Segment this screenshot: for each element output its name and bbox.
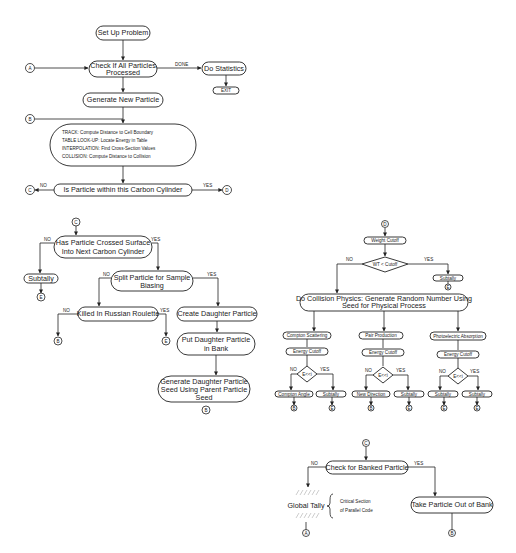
label-no: NO: [346, 257, 353, 262]
connector-b-label: B: [204, 408, 207, 413]
arrow-no: [366, 375, 373, 390]
label-no: NO: [44, 237, 51, 242]
decision-energy-compton-label: E<<i: [302, 372, 311, 377]
arrow-no: [58, 314, 78, 336]
node-compton-angle-label: Compton Angle: [278, 392, 310, 397]
decision-energy-pair-label: E<<i: [378, 373, 387, 378]
label-no: NO: [311, 461, 318, 466]
hatch-top: [296, 490, 319, 495]
critical-section-label-1: Critical Section: [340, 499, 371, 504]
arrow-yes: [408, 264, 448, 274]
label-no: NO: [290, 367, 297, 372]
node-track-line-4: COLLISION: Compute Distance to Collision: [62, 154, 151, 159]
label-no: NO: [103, 272, 110, 277]
node-within-cylinder-label: Is Particle within this Carbon Cylinder: [63, 185, 183, 194]
connector-e-label: E: [330, 406, 333, 411]
decision-wt-cutoff-label: WT < Cutoff: [373, 262, 398, 267]
label-yes: YES: [160, 308, 169, 313]
connector-e-label: E: [442, 406, 445, 411]
node-subtally-label: Subtally: [440, 276, 457, 281]
node-generate-new-label: Generate New Particle: [87, 95, 159, 104]
arrow-yes: [393, 375, 408, 390]
connector-e-label: E: [164, 339, 167, 344]
connector-e-label: E: [446, 285, 449, 290]
node-killed-label: Killed In Russian Roulette: [77, 309, 159, 318]
node-put-daughter-label-1: Put Daughter Particle: [182, 335, 250, 344]
label-yes: YES: [396, 368, 405, 373]
arrow-no: [99, 278, 111, 306]
arrow-yes: [468, 376, 478, 390]
arrow-no: [291, 374, 297, 390]
arrow-yes: [158, 314, 166, 336]
node-subtally-compton-label: Subtally: [323, 392, 340, 397]
arrow-yes: [317, 374, 333, 390]
node-subtally-label: Subtally: [28, 274, 54, 283]
node-pair-production-label: Pair Production: [365, 333, 397, 338]
node-weight-cutoff-label: Weight Cutoff: [371, 238, 399, 243]
node-subtally-photo-2-label: Subtally: [469, 392, 486, 397]
arrow-yes: [152, 243, 158, 270]
node-collision-label-2: Seed for Physical Process: [342, 301, 426, 310]
connector-e-label: E: [39, 295, 42, 300]
flowchart-canvas: Set Up Problem Check If All Particles Pr…: [0, 0, 516, 553]
node-track-line-3: INTERPOLATION: Find Cross-Section Values: [62, 146, 156, 151]
node-crossed-label-1: Has Particle Crossed Surface: [56, 238, 150, 247]
label-no: NO: [365, 368, 372, 373]
node-crossed-label-2: Into Next Carbon Cylinder: [62, 247, 145, 256]
node-take-out-label: Take Particle Out of Bank: [411, 500, 493, 509]
node-exit-label: EXIT: [221, 88, 231, 93]
arrow-no: [40, 243, 54, 273]
node-subtally-photo-1-label: Subtally: [435, 392, 452, 397]
flowchart-d: D Weight Cutoff WT < Cutoff NO YES Subta…: [275, 221, 492, 412]
node-split-label-2: Biasing: [140, 281, 164, 290]
brace: [327, 494, 333, 518]
node-check-banked-label: Check for Banked Particle: [325, 463, 408, 472]
node-do-statistics-label: Do Statistics: [204, 64, 244, 73]
node-create-daughter-label: Create Daughter Particle: [177, 309, 256, 318]
node-energy-cutoff-photo-label: Energy Cutoff: [444, 352, 473, 357]
node-track-line-1: TRACK: Compute Distance to Cell Boundary: [62, 130, 154, 135]
flowchart-c: C Has Particle Crossed Surface Into Next…: [24, 218, 257, 414]
arrow-no: [337, 264, 362, 293]
node-subtally-pair-label: Subtally: [401, 392, 418, 397]
label-yes: YES: [207, 272, 216, 277]
label-yes: YES: [151, 237, 160, 242]
connector-b-label: B: [450, 531, 453, 536]
node-energy-cutoff-pair-label: Energy Cutoff: [369, 350, 398, 355]
label-no: NO: [63, 308, 70, 313]
node-gen-seed-label-3: Seed: [196, 393, 213, 402]
label-yes: YES: [203, 183, 212, 188]
hatch-bottom: [296, 513, 319, 518]
node-energy-cutoff-compton-label: Energy Cutoff: [293, 349, 322, 354]
node-check-all-label-2: Processed: [106, 68, 140, 77]
main-flowchart: Set Up Problem Check If All Particles Pr…: [26, 26, 247, 196]
node-track-line-2: TABLE LOOK-UP: Locate Energy in Table: [62, 138, 148, 143]
label-yes: YES: [414, 461, 423, 466]
label-no: NO: [439, 369, 446, 374]
label-yes: YES: [470, 369, 479, 374]
connector-b-label: B: [369, 406, 372, 411]
critical-section-label-2: of Parallel Code: [340, 508, 373, 513]
node-setup-label: Set Up Problem: [98, 28, 149, 37]
arrow-no: [308, 467, 326, 487]
flowchart-bank: C Check for Banked Particle NO YES Globa…: [287, 440, 493, 537]
node-new-direction-label: New Direction: [357, 392, 386, 397]
arrow-yes: [193, 278, 218, 306]
label-yes: YES: [320, 367, 329, 372]
label-yes: YES: [424, 257, 433, 262]
node-photoelectric-label: Photoelectric Absorption: [433, 334, 483, 339]
connector-e-label: E: [475, 406, 478, 411]
label-no: NO: [40, 183, 47, 188]
connector-b-label: B: [56, 339, 59, 344]
node-compton-label: Compton Scattering: [287, 333, 328, 338]
arrow-no: [440, 376, 448, 390]
node-put-daughter-label-2: in Bank: [204, 344, 228, 353]
label-done: DONE: [175, 62, 188, 67]
connector-b-label: B: [28, 117, 31, 122]
global-tally-label: Global Tally: [287, 501, 324, 510]
connector-e-label: E: [407, 406, 410, 411]
decision-energy-photo-label: E<<i: [453, 374, 462, 379]
connector-b-label: B: [292, 406, 295, 411]
arrow-yes: [408, 467, 435, 496]
